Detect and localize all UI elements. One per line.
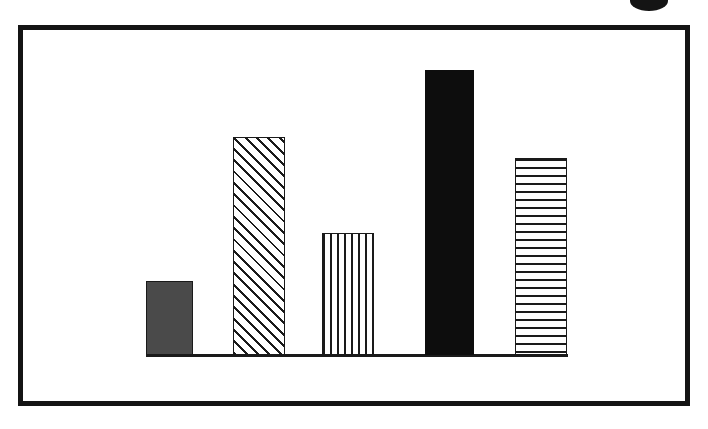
chart-canvas bbox=[0, 0, 708, 429]
bar-1 bbox=[146, 281, 193, 355]
plot-area bbox=[0, 0, 708, 429]
bar-4 bbox=[425, 70, 474, 355]
bar-3 bbox=[322, 233, 374, 355]
bar-2 bbox=[233, 137, 285, 355]
bar-5 bbox=[515, 158, 567, 355]
